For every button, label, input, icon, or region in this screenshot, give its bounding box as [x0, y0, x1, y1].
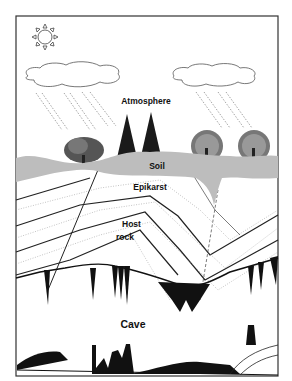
atmosphere-label: Atmosphere [121, 96, 171, 106]
host-rock-label-line2: rock [116, 232, 134, 242]
karst-cave-diagram: Atmosphere Soil Epikarst [0, 0, 292, 381]
cave-label: Cave [120, 318, 145, 330]
sun-icon [32, 24, 58, 50]
host-rock-label: Host [122, 219, 141, 229]
soil-label: Soil [149, 161, 165, 171]
epikarst-label: Epikarst [133, 182, 167, 192]
